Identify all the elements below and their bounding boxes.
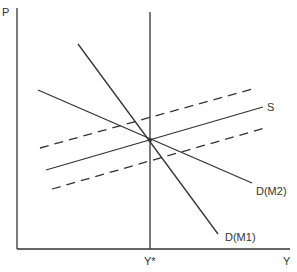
- s-curve-label: S: [267, 101, 274, 113]
- y-axis-label: Y: [283, 255, 291, 267]
- demand-curve-m1: [78, 44, 218, 234]
- d-m1-label: D(M1): [225, 231, 256, 243]
- p-axis-label: P: [2, 6, 9, 18]
- d-m2-label: D(M2): [256, 185, 287, 197]
- demand-curve-m2: [38, 90, 252, 183]
- y-star-label: Y*: [144, 255, 156, 267]
- diagram-canvas: P Y Y* S D(M1) D(M2): [0, 0, 297, 272]
- equilibrium-point: [148, 138, 152, 142]
